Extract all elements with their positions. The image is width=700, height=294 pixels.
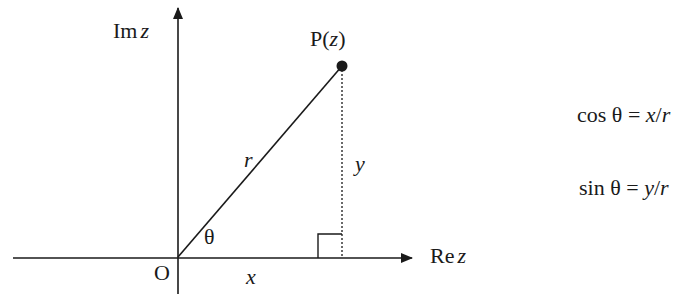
sin-equals: = (626, 175, 638, 200)
radius-segment (178, 66, 342, 257)
y-label: y (355, 153, 365, 175)
imaginary-axis-label: Imz (113, 20, 149, 42)
sin-theta: θ (610, 175, 621, 200)
theta-label: θ (204, 226, 215, 248)
cos-formula: cos θ = x/r (577, 104, 670, 126)
cos-equals: = (628, 102, 640, 127)
sin-numerator: y (644, 175, 654, 200)
point-label-prefix: P( (310, 26, 330, 51)
sin-denominator: r (660, 175, 669, 200)
cos-numerator: x (646, 102, 656, 127)
cos-denominator: r (662, 102, 671, 127)
origin-label: O (154, 262, 170, 284)
complex-plane-diagram (0, 0, 700, 294)
real-axis-label: Rez (430, 245, 466, 267)
point-label: P(z) (310, 28, 345, 50)
cos-theta: θ (612, 102, 623, 127)
re-prefix: Re (430, 243, 454, 268)
im-var: z (140, 18, 149, 43)
sin-formula: sin θ = y/r (579, 177, 669, 199)
re-var: z (457, 243, 466, 268)
cos-func: cos (577, 102, 606, 127)
point-label-var: z (330, 26, 339, 51)
right-angle-marker (318, 234, 342, 258)
radius-label: r (244, 149, 253, 171)
point-label-suffix: ) (338, 26, 345, 51)
x-label: x (246, 266, 256, 288)
sin-func: sin (579, 175, 605, 200)
point-p (337, 61, 348, 72)
im-prefix: Im (113, 18, 137, 43)
